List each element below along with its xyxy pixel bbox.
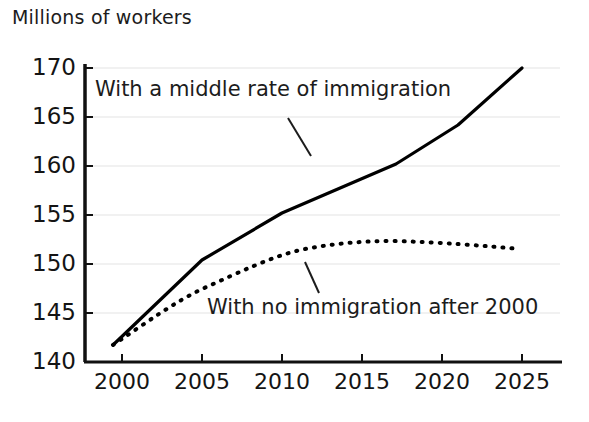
chart-plot-area [0, 0, 589, 422]
annotation-no-immigration: With no immigration after 2000 [207, 297, 538, 318]
series-line-no-immigration [113, 241, 520, 345]
leader-line-middle-immigration [288, 118, 311, 156]
chart-container: Millions of workers 170 165 160 155 150 … [0, 0, 589, 422]
leader-line-no-immigration [305, 262, 319, 293]
annotation-middle-immigration: With a middle rate of immigration [95, 79, 451, 100]
x-axis-line [84, 354, 562, 362]
gridlines [84, 68, 560, 313]
y-axis-line [85, 64, 93, 362]
